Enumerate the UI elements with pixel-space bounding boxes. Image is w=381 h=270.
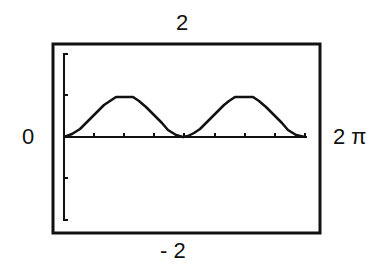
graph-canvas (0, 0, 381, 270)
plot-frame (53, 44, 320, 233)
function-curve (64, 97, 305, 137)
